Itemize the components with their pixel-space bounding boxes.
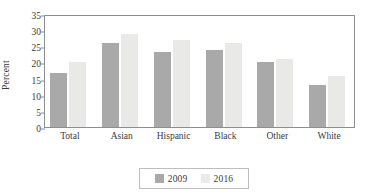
legend-label-2009: 2009 [168,174,188,184]
x-axis-tick-white: White [317,131,340,141]
chart-title-ghost [70,0,300,5]
bar-group [97,16,149,127]
legend-label-2016: 2016 [214,174,234,184]
bar-group [304,16,356,127]
bar-hispanic-2016[interactable] [173,40,190,127]
bar-chart-figure: Percent 05101520253035 TotalAsianHispani… [0,0,366,196]
bar-white-2009[interactable] [309,85,326,127]
y-axis-tick-0: 0 [19,124,41,134]
bar-black-2016[interactable] [225,43,242,127]
x-axis-tick-total: Total [60,131,79,141]
y-axis-tick-15: 15 [19,76,41,86]
x-axis-tick-black: Black [214,131,236,141]
plot-inner: 05101520253035 [45,16,354,127]
y-axis-tickmark-0 [41,129,45,130]
y-axis-tick-25: 25 [19,43,41,53]
bar-group [149,16,201,127]
bar-total-2016[interactable] [69,62,86,127]
x-axis-tick-other: Other [266,131,288,141]
y-axis-tick-35: 35 [19,11,41,21]
x-axis-tick-asian: Asian [111,131,133,141]
bar-white-2016[interactable] [328,76,345,127]
bar-other-2009[interactable] [257,62,274,127]
y-axis-tick-10: 10 [19,92,41,102]
legend-swatch-2016 [201,174,210,183]
y-axis-tick-5: 5 [19,108,41,118]
plot-area: 05101520253035 [44,15,355,128]
bar-total-2009[interactable] [50,73,67,127]
y-axis-tick-30: 30 [19,27,41,37]
bar-black-2009[interactable] [206,50,223,127]
y-axis-tick-20: 20 [19,59,41,69]
bar-asian-2009[interactable] [102,43,119,127]
bar-other-2016[interactable] [276,59,293,127]
bar-hispanic-2009[interactable] [154,52,171,127]
bar-group [201,16,253,127]
bar-group [252,16,304,127]
bar-asian-2016[interactable] [121,34,138,127]
chart-legend: 2009 2016 [139,168,249,189]
legend-swatch-2009 [155,174,164,183]
legend-item-2016[interactable]: 2016 [201,174,234,184]
y-axis-title: Percent [1,40,15,110]
bar-group [45,16,97,127]
legend-item-2009[interactable]: 2009 [155,174,188,184]
x-axis-tick-hispanic: Hispanic [157,131,191,141]
